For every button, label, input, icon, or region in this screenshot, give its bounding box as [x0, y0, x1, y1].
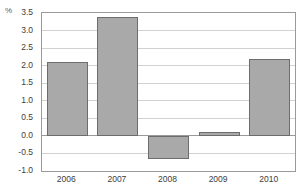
y-tick-label: -1.0 [0, 166, 37, 174]
bar-2010 [249, 59, 290, 136]
bar-2006 [47, 62, 88, 136]
x-tick-label: 2010 [243, 174, 294, 184]
y-tick-label: 0.0 [0, 131, 37, 139]
y-tick-label: 3.0 [0, 26, 37, 34]
y-tick-label: -0.5 [0, 148, 37, 156]
x-tick-label: 2006 [41, 174, 92, 184]
bar-2007 [97, 17, 138, 136]
x-tick-label: 2009 [193, 174, 244, 184]
plot-area [41, 12, 296, 172]
x-tick-label: 2007 [92, 174, 143, 184]
y-tick-label: 1.5 [0, 78, 37, 86]
x-axis: 20062007200820092010 [41, 174, 296, 190]
y-tick-label: 2.0 [0, 61, 37, 69]
gridline [42, 30, 295, 31]
bar-2009 [199, 132, 240, 136]
y-tick-label: 2.5 [0, 43, 37, 51]
bar-2008 [148, 136, 189, 159]
bar-chart: % 3.53.02.52.01.51.00.50.0-0.5-1.0 20062… [0, 0, 307, 196]
y-tick-label: 1.0 [0, 96, 37, 104]
y-axis: 3.53.02.52.01.51.00.50.0-0.5-1.0 [0, 0, 37, 196]
y-tick-label: 0.5 [0, 113, 37, 121]
x-tick-label: 2008 [142, 174, 193, 184]
y-tick-label: 3.5 [0, 8, 37, 16]
gridline [42, 48, 295, 49]
